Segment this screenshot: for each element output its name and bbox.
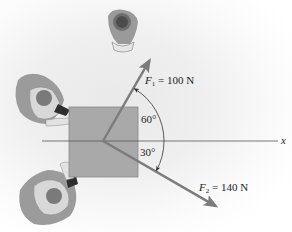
person-top-figure [108, 10, 138, 52]
force-diagram: x 60° 30° F1 = 100 N F2 = 140 N [0, 0, 292, 232]
x-axis-label: x [280, 134, 286, 146]
diagram-canvas: x 60° 30° F1 = 100 N F2 = 140 N [0, 0, 292, 232]
angle-arc-30 [156, 141, 164, 170]
force-value-f1: = 100 N [155, 74, 194, 86]
force-label-f1: F1 = 100 N [144, 74, 194, 88]
force-label-f2: F2 = 140 N [198, 181, 248, 195]
force-value-f2: = 140 N [209, 181, 248, 193]
angle-label-30: 30° [140, 146, 155, 158]
angle-label-60: 60° [141, 113, 156, 125]
person-left-upper-figure [15, 74, 70, 126]
